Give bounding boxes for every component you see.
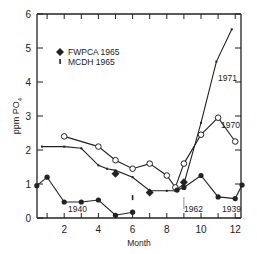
open-circle-marker xyxy=(113,157,119,163)
annotation-1970: 1970 xyxy=(221,120,240,130)
x-marker xyxy=(215,61,217,63)
y-tick-label: 3 xyxy=(25,111,31,122)
x-tick-label: 4 xyxy=(96,224,102,235)
x-marker xyxy=(41,146,43,148)
legend-label-fwpca: FWPCA 1965 xyxy=(68,47,120,57)
subscript: 4 xyxy=(17,97,23,101)
filled-circle-marker xyxy=(130,210,135,215)
x-tick-label: 10 xyxy=(195,224,207,235)
x-marker xyxy=(80,147,82,149)
open-circle-marker xyxy=(147,161,153,167)
annotation-1962: 1962 xyxy=(184,204,203,214)
open-circle-marker xyxy=(61,134,67,140)
filled-circle-marker xyxy=(45,175,50,180)
filled-circle-marker xyxy=(239,182,244,187)
annotation-1940: 1940 xyxy=(68,204,87,214)
filled-circle-marker xyxy=(113,213,118,218)
open-circle-marker xyxy=(198,132,204,138)
x-tick-label: 8 xyxy=(164,224,170,235)
x-marker xyxy=(200,122,202,124)
open-circle-marker xyxy=(181,161,187,167)
open-circle-marker xyxy=(232,139,238,145)
x-marker xyxy=(106,168,108,170)
legend-label-mcdh: MCDH 1965 xyxy=(68,57,115,67)
filled-circle-marker xyxy=(216,194,221,199)
x-marker xyxy=(97,164,99,166)
y-tick-label: 4 xyxy=(25,77,31,88)
x-tick-label: 12 xyxy=(230,224,242,235)
diamond-marker xyxy=(146,189,154,197)
y-tick-label: 0 xyxy=(25,213,31,224)
filled-circle-marker xyxy=(198,173,203,178)
annotation-1939: 1939 xyxy=(222,204,241,214)
open-circle-marker xyxy=(130,166,136,172)
legend-bar-icon xyxy=(59,59,61,64)
filled-circle-marker xyxy=(174,188,179,193)
y-tick-label: 5 xyxy=(25,43,31,54)
y-tick-label: 2 xyxy=(25,145,31,156)
filled-circle-marker xyxy=(233,196,238,201)
x-axis-label: Month xyxy=(127,238,151,248)
annotation-1971: 1971 xyxy=(218,73,237,83)
bar-marker xyxy=(132,195,134,200)
filled-circle-marker xyxy=(34,183,39,188)
x-tick-label: 6 xyxy=(130,224,136,235)
open-circle-marker xyxy=(164,173,170,179)
x-tick-label: 2 xyxy=(61,224,67,235)
open-circle-marker xyxy=(96,144,102,150)
y-tick-label: 1 xyxy=(25,179,31,190)
filled-circle-marker xyxy=(96,197,101,202)
x-marker xyxy=(231,28,233,30)
legend-diamond-icon xyxy=(56,48,64,56)
x-marker xyxy=(132,176,134,178)
line-1970 xyxy=(64,118,235,188)
line-1939 xyxy=(177,176,242,199)
x-marker xyxy=(166,190,168,192)
y-tick-label: 6 xyxy=(25,9,31,20)
series-layer xyxy=(34,28,244,218)
filled-circle-marker xyxy=(62,199,67,204)
y-axis-label: ppm PO4 xyxy=(11,97,23,134)
x-marker xyxy=(63,146,65,148)
phosphate-chart: 246810120123456Monthppm PO4 197119701940… xyxy=(0,0,257,254)
